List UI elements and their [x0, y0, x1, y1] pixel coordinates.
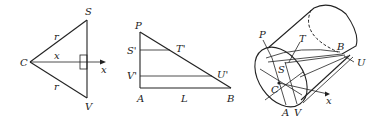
label-b3: B: [336, 41, 344, 52]
label-u3: U: [357, 57, 366, 68]
wedge-line-4: [300, 56, 348, 77]
front-ellipse: [244, 37, 318, 116]
label-s: S: [85, 6, 92, 17]
cross-section-figure: C S V r r x x: [20, 6, 107, 112]
label-c: C: [20, 57, 28, 68]
label-a: A: [136, 93, 144, 104]
cylinder-wedge-figure: P T B U S C A V x: [244, 5, 366, 118]
label-s-prime: S': [127, 45, 137, 56]
label-a3: A: [281, 107, 289, 118]
label-v-prime: V': [127, 70, 137, 81]
label-p: P: [134, 20, 142, 31]
label-r-bottom: r: [54, 81, 60, 92]
label-c3: C: [271, 84, 279, 95]
x-axis-3d: [279, 83, 328, 94]
line-sv: [285, 62, 297, 104]
wedge-line-1: [266, 50, 340, 58]
label-t-prime: T': [176, 43, 185, 54]
label-v3: V: [294, 107, 303, 118]
label-t3: T: [299, 33, 307, 44]
label-x-mid: x: [54, 50, 60, 61]
label-x3: x: [326, 95, 332, 106]
label-v: V: [85, 101, 94, 112]
hidden-edge: [309, 10, 338, 52]
label-x-axis: x: [101, 64, 107, 75]
side-triangle-figure: P S' T' V' U' A L B: [127, 20, 234, 104]
label-b: B: [226, 93, 234, 104]
label-s3: S: [278, 64, 285, 75]
edge-cv: [30, 62, 87, 98]
label-l: L: [180, 93, 188, 104]
label-u-prime: U': [217, 69, 228, 80]
label-p3: P: [258, 29, 266, 40]
geometry-diagram: C S V r r x x P S' T' V' U' A L B: [0, 0, 385, 123]
wedge-line-2: [268, 54, 342, 62]
